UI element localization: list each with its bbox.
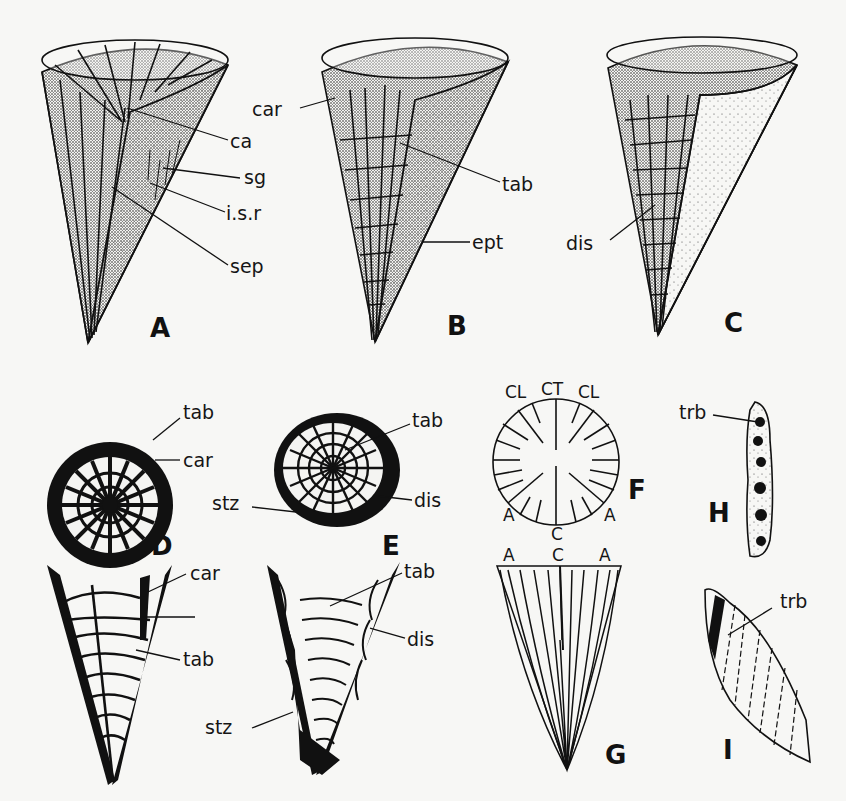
label-trb-i: trb (780, 592, 807, 611)
label-tab-b: tab (502, 175, 533, 194)
label-stz-e: stz (212, 494, 239, 513)
label-a-left-f: A (503, 507, 515, 524)
label-dis-e: dis (414, 491, 441, 510)
panel-letter-h: H (708, 500, 730, 526)
label-cl-right: CL (578, 384, 599, 401)
label-ca: ca (230, 132, 252, 151)
label-trb-h: trb (679, 403, 706, 422)
label-cl-left: CL (505, 384, 526, 401)
panel-c-cone-drawing (607, 37, 797, 335)
label-isr: i.s.r (226, 204, 261, 223)
panel-g-septal-insertion (497, 566, 621, 770)
label-car-b: car (252, 100, 282, 119)
panel-i-trabeculae (705, 589, 810, 762)
panel-letter-e: E (382, 533, 400, 559)
panel-letter-i: I (723, 737, 733, 763)
label-a-left-g: A (503, 547, 515, 564)
panel-letter-b: B (447, 313, 467, 339)
panel-h-trabecula (747, 402, 773, 557)
label-tab-e: tab (412, 411, 443, 430)
panel-letter-c: C (724, 310, 743, 336)
label-stz-elong: stz (205, 718, 232, 737)
label-a-right-f: A (604, 507, 616, 524)
label-car-dlong: car (190, 564, 220, 583)
label-tab-elong: tab (404, 562, 435, 581)
longitudinal-section-e (267, 562, 400, 775)
coral-morphology-figure (0, 0, 846, 801)
panel-letter-f: F (628, 477, 646, 503)
panel-letter-d: D (151, 533, 173, 559)
label-c-f: C (551, 526, 563, 543)
label-ept: ept (472, 233, 503, 252)
panel-letter-g: G (605, 742, 626, 768)
panel-b-cone-drawing (322, 38, 508, 342)
panel-e-cross-section (274, 413, 400, 527)
label-ct: CT (541, 381, 563, 398)
panel-a-cone-drawing (42, 40, 228, 343)
panel-letter-a: A (150, 315, 170, 341)
longitudinal-section-d (47, 565, 172, 785)
label-dis-elong: dis (407, 630, 434, 649)
label-tab-dlong: tab (183, 650, 214, 669)
label-sep: sep (230, 257, 264, 276)
label-sg: sg (244, 168, 266, 187)
label-c-g: C (552, 547, 564, 564)
label-a-right-g: A (599, 547, 611, 564)
label-dis-c: dis (566, 234, 593, 253)
label-tab-d: tab (183, 403, 214, 422)
panel-d-leaders (153, 418, 180, 460)
label-car-d: car (183, 451, 213, 470)
